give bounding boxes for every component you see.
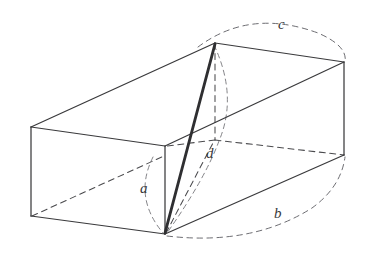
space-diagonal-group <box>165 44 215 233</box>
arc-d-curve <box>167 45 227 233</box>
edge-bottom-front <box>31 216 165 234</box>
arc-b-curve <box>167 157 345 238</box>
edge-front-top-right-to-top-left <box>31 127 165 146</box>
figure-canvas: a b c d <box>0 0 378 263</box>
arc-c-curve <box>198 23 345 62</box>
solid-edges-group <box>31 43 344 234</box>
arc-a-curve <box>145 157 163 233</box>
hidden-edges-group <box>32 43 344 233</box>
edge-top-left-to-apex <box>31 43 215 127</box>
edge-apex-to-top-right <box>215 43 344 62</box>
box-diagram-svg <box>0 0 378 263</box>
label-a: a <box>140 181 148 196</box>
label-c: c <box>278 17 285 32</box>
edge-bottom-right <box>165 155 344 234</box>
hidden-edge-back-bottom <box>215 140 344 155</box>
space-diagonal-line <box>165 44 215 233</box>
label-d: d <box>206 146 214 161</box>
arc-group <box>145 23 345 238</box>
label-b: b <box>274 206 282 221</box>
